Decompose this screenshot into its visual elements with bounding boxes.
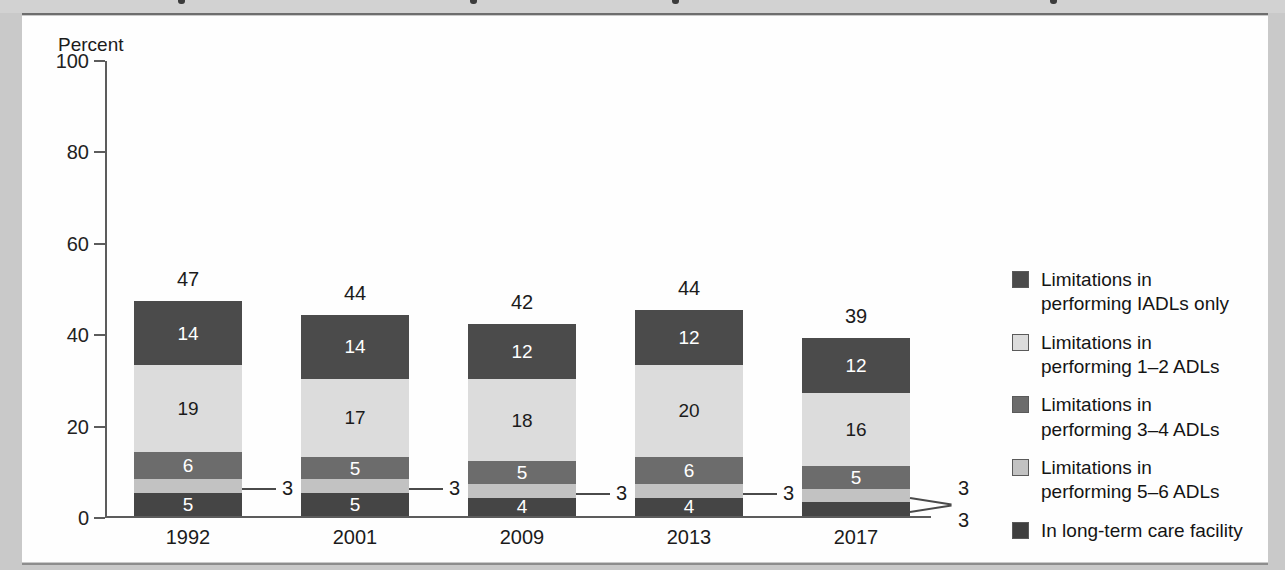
callout-value: 3 — [616, 481, 627, 504]
stacked-bar[interactable]: 51612 — [802, 338, 910, 516]
legend-label: Limitations inperforming 3–4 ADLs — [1041, 393, 1220, 442]
legend-label-line2: performing IADLs only — [1041, 292, 1229, 316]
bar-total-label: 44 — [301, 282, 409, 305]
stacked-bar[interactable]: 551714 — [301, 315, 409, 516]
y-axis-tick — [94, 334, 105, 336]
stacked-bar[interactable]: 451812 — [468, 324, 576, 516]
bar-segment-label: 5 — [851, 468, 862, 487]
y-axis-tick-label: 100 — [31, 50, 89, 73]
legend-label-line1: Limitations in — [1041, 331, 1220, 355]
y-axis-tick — [94, 151, 105, 153]
bar-segment[interactable] — [134, 479, 242, 493]
bar-group[interactable]: 561914471992 — [134, 301, 242, 516]
bar-segment[interactable]: 5 — [301, 457, 409, 480]
page-background: Percent 020406080100 5619144719925517144… — [0, 0, 1285, 570]
bar-group[interactable]: 462012442013 — [635, 310, 743, 516]
x-axis-category-label: 2013 — [613, 526, 765, 549]
bar-segment-label: 4 — [684, 497, 695, 516]
callout-value: 3 — [958, 509, 969, 532]
callout-value: 3 — [449, 477, 460, 500]
legend-item[interactable]: Limitations inperforming 1–2 ADLs — [1012, 331, 1282, 380]
bar-segment[interactable]: 14 — [134, 301, 242, 365]
bar-group[interactable]: 551714442001 — [301, 315, 409, 516]
x-axis-category-label: 2001 — [279, 526, 431, 549]
y-axis-tick-label: 40 — [31, 324, 89, 347]
y-axis-tick-label: 60 — [31, 232, 89, 255]
bar-segment[interactable]: 17 — [301, 379, 409, 457]
bar-segment-label: 16 — [845, 420, 866, 439]
bar-segment[interactable]: 12 — [802, 338, 910, 393]
legend-item[interactable]: Limitations inperforming 5–6 ADLs — [1012, 456, 1282, 505]
bar-segment[interactable]: 4 — [468, 498, 576, 516]
bar-segment[interactable] — [301, 479, 409, 493]
bar-segment[interactable]: 6 — [635, 457, 743, 484]
bar-segment[interactable] — [802, 502, 910, 516]
y-axis-tick — [94, 517, 105, 519]
chart-panel: Percent 020406080100 5619144719925517144… — [22, 16, 1268, 562]
bar-segment-label: 14 — [177, 324, 198, 343]
legend-item[interactable]: Limitations inperforming IADLs only — [1012, 268, 1282, 317]
bar-segment-label: 4 — [517, 497, 528, 516]
bar-segment[interactable]: 5 — [134, 493, 242, 516]
bar-segment[interactable]: 18 — [468, 379, 576, 461]
callout-value: 3 — [783, 481, 794, 504]
bar-segment-label: 5 — [517, 463, 528, 482]
bar-group[interactable]: 451812422009 — [468, 324, 576, 516]
x-axis-category-label: 2009 — [446, 526, 598, 549]
x-axis-category-label: 2017 — [780, 526, 932, 549]
legend-label: In long-term care facility — [1041, 519, 1243, 543]
bar-segment-label: 5 — [183, 495, 194, 514]
legend-label-line1: Limitations in — [1041, 456, 1220, 480]
bar-segment[interactable]: 5 — [301, 493, 409, 516]
bar-group[interactable]: 51612392017 — [802, 338, 910, 516]
legend-label-line2: performing 1–2 ADLs — [1041, 355, 1220, 379]
bar-segment[interactable]: 20 — [635, 365, 743, 456]
legend-item[interactable]: In long-term care facility — [1012, 519, 1282, 543]
bar-segment[interactable]: 12 — [635, 310, 743, 365]
bar-segment-label: 19 — [177, 399, 198, 418]
y-axis-tick — [94, 243, 105, 245]
callout-leader-line — [242, 488, 276, 490]
bar-segment[interactable]: 6 — [134, 452, 242, 479]
legend-label-line2: performing 5–6 ADLs — [1041, 480, 1220, 504]
bar-segment-label: 12 — [678, 328, 699, 347]
y-axis-line — [105, 61, 107, 518]
plot-area: 020406080100 561914471992551714442001451… — [105, 61, 895, 518]
legend-label-line1: Limitations in — [1041, 268, 1229, 292]
bar-segment-label: 5 — [350, 459, 361, 478]
legend-item[interactable]: Limitations inperforming 3–4 ADLs — [1012, 393, 1282, 442]
bar-segment[interactable]: 4 — [635, 498, 743, 516]
callout-leader-line — [576, 493, 610, 495]
bar-segment-label: 6 — [684, 461, 695, 480]
legend-label: Limitations inperforming IADLs only — [1041, 268, 1229, 317]
bar-segment[interactable] — [635, 484, 743, 498]
bar-segment[interactable] — [468, 484, 576, 498]
bar-segment-label: 12 — [845, 356, 866, 375]
callout-leader-line — [910, 505, 952, 514]
legend-swatch-icon — [1012, 459, 1029, 476]
bar-segment[interactable]: 16 — [802, 393, 910, 466]
bar-segment[interactable]: 14 — [301, 315, 409, 379]
bar-segment-label: 14 — [344, 337, 365, 356]
legend-label-line2: performing 3–4 ADLs — [1041, 418, 1220, 442]
stacked-bar[interactable]: 462012 — [635, 310, 743, 516]
bar-segment[interactable]: 12 — [468, 324, 576, 379]
legend-swatch-icon — [1012, 334, 1029, 351]
chart-legend: Limitations inperforming IADLs onlyLimit… — [1012, 268, 1282, 543]
stacked-bar[interactable]: 561914 — [134, 301, 242, 516]
legend-swatch-icon — [1012, 271, 1029, 288]
bar-segment[interactable]: 5 — [802, 466, 910, 489]
y-axis-tick-label: 0 — [31, 507, 89, 530]
legend-label: Limitations inperforming 1–2 ADLs — [1041, 331, 1220, 380]
bar-segment[interactable] — [802, 489, 910, 503]
y-axis-tick — [94, 60, 105, 62]
bar-segment-label: 17 — [344, 408, 365, 427]
bottom-divider-rule — [22, 563, 1268, 565]
bar-total-label: 42 — [468, 291, 576, 314]
bar-segment[interactable]: 5 — [468, 461, 576, 484]
x-axis-category-label: 1992 — [112, 526, 264, 549]
legend-swatch-icon — [1012, 522, 1029, 539]
bar-segment-label: 5 — [350, 495, 361, 514]
legend-swatch-icon — [1012, 396, 1029, 413]
bar-segment[interactable]: 19 — [134, 365, 242, 452]
